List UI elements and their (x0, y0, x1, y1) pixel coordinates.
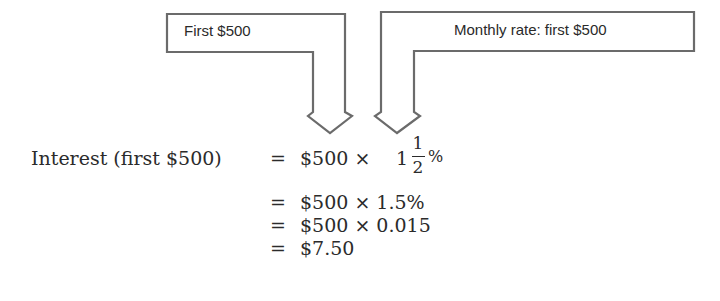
equation-line1-term: $500 × (300, 147, 370, 169)
equation-lhs: Interest (first $500) (31, 147, 222, 169)
fraction-numerator: 1 (411, 133, 425, 153)
equation-line4-eq: = (270, 237, 286, 259)
equation-line2-expr: $500 × 1.5% (300, 191, 425, 213)
left-callout-label: First $500 (184, 22, 251, 39)
right-callout-label: Monthly rate: first $500 (454, 21, 607, 38)
equation-line1-unit: % (428, 147, 443, 166)
equation-line3-eq: = (270, 214, 286, 236)
equation-line3-expr: $500 × 0.015 (300, 214, 431, 236)
fraction-denominator: 2 (411, 157, 425, 177)
equation-line2-eq: = (270, 191, 286, 213)
equation-line4-expr: $7.50 (300, 237, 354, 259)
equation-line1-whole: 1 (396, 147, 408, 169)
equation-line1-eq: = (270, 147, 286, 169)
